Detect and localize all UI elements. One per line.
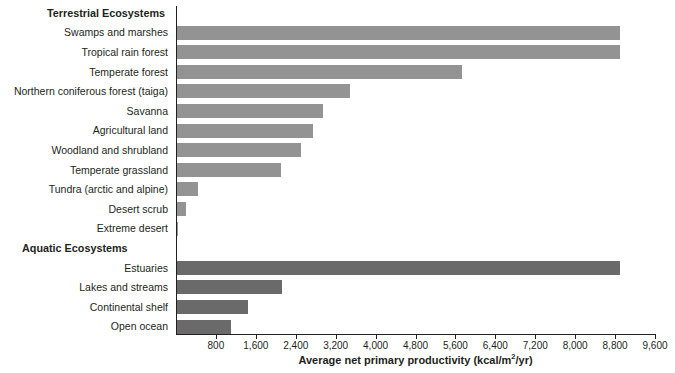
x-tick-label: 9,600 [642,340,667,351]
bar-row: Tundra (arctic and alpine) [0,179,675,199]
x-tick-label: 3,200 [323,340,348,351]
bar-agricultural-land [176,124,313,138]
x-tick-mark [615,334,616,339]
bar-row: Extreme desert [0,219,675,239]
group-header-row: Aquatic Ecosystems [0,238,675,258]
category-label: Continental shelf [0,301,172,313]
x-tick-mark [336,334,337,339]
bar-estuaries [176,261,620,275]
category-label: Estuaries [0,262,172,274]
bar-row: Lakes and streams [0,277,675,297]
x-tick-label: 800 [208,340,225,351]
x-tick-mark [535,334,536,339]
x-tick-mark [455,334,456,339]
bar-row: Swamps and marshes [0,23,675,43]
bar-lakes-and-streams [176,280,282,294]
group-header-label: Terrestrial Ecosystems [0,7,172,19]
category-label: Tundra (arctic and alpine) [0,183,172,195]
category-label: Agricultural land [0,124,172,136]
category-label: Tropical rain forest [0,46,172,58]
category-label: Lakes and streams [0,281,172,293]
x-tick-label: 2,400 [283,340,308,351]
bar-continental-shelf [176,300,248,314]
bar-row: Tropical rain forest [0,42,675,62]
x-tick-mark [655,334,656,339]
bar-northern-coniferous-forest-taiga [176,84,350,98]
x-axis-title-main: Average net primary productivity (kcal/m [298,354,511,366]
x-tick-mark [376,334,377,339]
x-tick-mark [256,334,257,339]
category-label: Temperate grassland [0,164,172,176]
category-label: Extreme desert [0,222,172,234]
y-axis-line [176,6,177,335]
x-tick-label: 8,000 [563,340,588,351]
x-tick-mark [216,334,217,339]
group-header-label: Aquatic Ecosystems [0,242,172,254]
x-tick-label: 6,400 [483,340,508,351]
group-header-row: Terrestrial Ecosystems [0,3,675,23]
category-label: Savanna [0,105,172,117]
x-tick-mark [575,334,576,339]
bar-row: Temperate grassland [0,160,675,180]
bar-row: Woodland and shrubland [0,140,675,160]
x-tick-mark [296,334,297,339]
category-label: Swamps and marshes [0,26,172,38]
x-tick-mark [416,334,417,339]
category-label: Open ocean [0,320,172,332]
category-label: Woodland and shrubland [0,144,172,156]
x-axis-title-tail: /yr) [516,354,533,366]
bar-woodland-and-shrubland [176,143,301,157]
x-tick-label: 4,000 [363,340,388,351]
bar-row: Northern coniferous forest (taiga) [0,81,675,101]
bar-row: Temperate forest [0,62,675,82]
bar-tropical-rain-forest [176,45,620,59]
bar-row: Continental shelf [0,297,675,317]
x-tick-label: 1,600 [243,340,268,351]
bar-swamps-and-marshes [176,26,620,40]
x-tick-label: 5,600 [443,340,468,351]
bar-temperate-grassland [176,163,281,177]
bar-row: Agricultural land [0,121,675,141]
category-label: Desert scrub [0,203,172,215]
chart-rows: Terrestrial EcosystemsSwamps and marshes… [0,3,675,336]
bar-tundra-arctic-and-alpine [176,182,198,196]
bar-row: Desert scrub [0,199,675,219]
category-label: Northern coniferous forest (taiga) [0,85,172,97]
x-tick-label: 7,200 [523,340,548,351]
bar-temperate-forest [176,65,462,79]
x-tick-label: 8,800 [603,340,628,351]
bar-row: Estuaries [0,258,675,278]
category-label: Temperate forest [0,66,172,78]
bar-desert-scrub [176,202,186,216]
bar-savanna [176,104,323,118]
bar-open-ocean [176,320,231,334]
x-tick-label: 4,800 [403,340,428,351]
x-axis-title: Average net primary productivity (kcal/m… [176,354,655,366]
bar-row: Savanna [0,101,675,121]
x-tick-mark [495,334,496,339]
chart-figure: Terrestrial EcosystemsSwamps and marshes… [0,0,675,373]
